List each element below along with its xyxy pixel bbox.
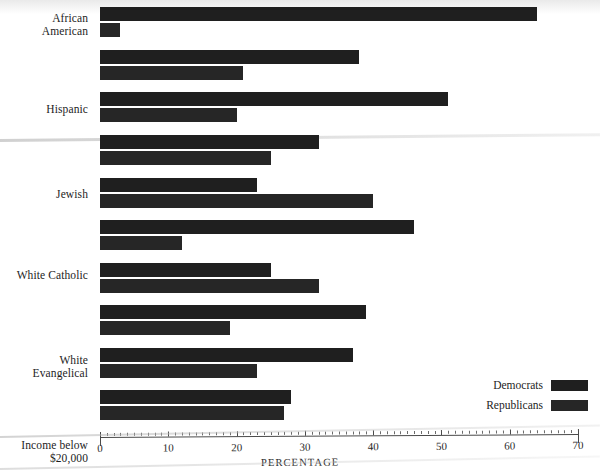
bar-pair <box>100 178 373 208</box>
x-tick-minor <box>325 432 326 435</box>
bar-democrats <box>100 220 414 234</box>
category-label: AfricanAmerican <box>0 12 88 38</box>
x-tick-minor <box>571 430 572 433</box>
x-tick-major <box>237 431 238 436</box>
x-tick-minor <box>469 431 470 434</box>
x-tick-minor <box>257 432 258 435</box>
category-label-line: Hispanic <box>0 103 88 116</box>
x-tick-minor <box>407 431 408 434</box>
x-tick-minor <box>189 432 190 435</box>
category-label-line: White Catholic <box>0 269 88 282</box>
x-tick-minor <box>428 431 429 434</box>
x-tick-major <box>578 429 579 434</box>
bar-republicans <box>100 321 230 335</box>
x-axis-line <box>100 434 578 438</box>
x-tick-minor <box>148 433 149 436</box>
x-tick-minor <box>312 432 313 435</box>
x-tick-minor <box>353 431 354 434</box>
x-tick-label: 0 <box>97 442 103 454</box>
x-tick-minor <box>264 432 265 435</box>
bar-republicans <box>100 23 120 37</box>
x-tick-label: 40 <box>368 440 379 452</box>
x-tick-minor <box>318 432 319 435</box>
legend-swatch <box>551 380 588 391</box>
x-tick-major <box>100 432 101 437</box>
x-tick-minor <box>346 431 347 434</box>
bar-republicans <box>100 236 182 250</box>
legend-item: Democrats <box>438 377 588 393</box>
x-tick-minor <box>380 431 381 434</box>
x-tick-minor <box>496 431 497 434</box>
x-tick-minor <box>557 430 558 433</box>
x-tick-label: 30 <box>299 441 310 453</box>
x-tick-minor <box>127 433 128 436</box>
plot-area: AfricanAmericanHispanicJewishWhite Catho… <box>0 14 600 428</box>
bar-democrats <box>100 305 366 319</box>
category-label-line: Jewish <box>0 188 88 201</box>
x-tick-major <box>305 431 306 436</box>
bar-republicans <box>100 406 284 420</box>
x-tick-major <box>373 430 374 435</box>
bar-pair <box>100 263 319 293</box>
bar-pair <box>100 348 353 378</box>
x-tick-minor <box>516 430 517 433</box>
bar-democrats <box>100 178 257 192</box>
bar-republicans <box>100 108 237 122</box>
x-tick-minor <box>161 433 162 436</box>
x-tick-minor <box>202 432 203 435</box>
category-label: Hispanic <box>0 103 88 116</box>
x-axis-ticks: 010203040506070 <box>0 0 597 1</box>
x-tick-minor <box>537 430 538 433</box>
x-tick-minor <box>141 433 142 436</box>
x-tick-major <box>510 429 511 434</box>
x-tick-minor <box>523 430 524 433</box>
x-tick-minor <box>120 433 121 436</box>
category-label-line: American <box>0 25 88 38</box>
category-label-line: Evangelical <box>0 367 88 380</box>
x-tick-minor <box>387 431 388 434</box>
bar-pair <box>100 92 448 122</box>
x-tick-minor <box>359 431 360 434</box>
x-tick-minor <box>551 430 552 433</box>
x-tick-minor <box>278 432 279 435</box>
bar-democrats <box>100 263 271 277</box>
x-tick-minor <box>243 432 244 435</box>
bar-republicans <box>100 151 271 165</box>
x-tick-major <box>168 432 169 437</box>
x-tick-minor <box>564 430 565 433</box>
x-tick-minor <box>400 431 401 434</box>
x-tick-label: 20 <box>231 441 242 453</box>
x-tick-minor <box>107 433 108 436</box>
bar-pair <box>100 390 291 420</box>
x-axis-title: PERCENTAGE <box>0 455 600 470</box>
x-tick-label: 10 <box>163 442 174 454</box>
category-label: WhiteEvangelical <box>0 354 88 380</box>
bar-pair <box>100 135 319 165</box>
bar-pair <box>100 305 366 335</box>
x-tick-minor <box>134 433 135 436</box>
x-tick-minor <box>182 432 183 435</box>
x-tick-minor <box>216 432 217 435</box>
bar-democrats <box>100 50 359 64</box>
bar-democrats <box>100 92 448 106</box>
x-tick-minor <box>114 433 115 436</box>
bar-democrats <box>100 390 291 404</box>
x-tick-minor <box>196 432 197 435</box>
x-tick-minor <box>394 431 395 434</box>
x-tick-minor <box>284 432 285 435</box>
bar-pair <box>100 220 414 250</box>
x-tick-label: 60 <box>504 439 515 451</box>
x-tick-minor <box>250 432 251 435</box>
x-tick-label: 50 <box>436 440 447 452</box>
x-tick-label: 70 <box>573 439 584 451</box>
x-tick-minor <box>462 431 463 434</box>
category-label-line: African <box>0 12 88 25</box>
bar-democrats <box>100 348 353 362</box>
x-tick-minor <box>332 432 333 435</box>
x-tick-minor <box>544 430 545 433</box>
bar-republicans <box>100 279 319 293</box>
x-tick-minor <box>175 433 176 436</box>
x-tick-minor <box>421 431 422 434</box>
category-label: White Catholic <box>0 269 88 282</box>
category-label-line: White <box>0 354 88 367</box>
